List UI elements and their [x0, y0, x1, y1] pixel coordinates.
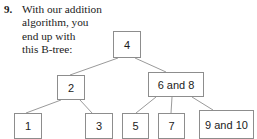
tree-node-leaf7: 7	[158, 113, 185, 139]
problem-text-line: this B-tree:	[22, 43, 114, 56]
tree-node-label: 2	[68, 82, 74, 94]
tree-edge-root-to-n2	[70, 58, 118, 75]
tree-node-leaf3: 3	[85, 113, 113, 139]
tree-edge-n68-to-leaf5	[136, 97, 156, 113]
tree-node-label: 3	[96, 120, 102, 132]
tree-edge-n2-to-leaf3	[80, 100, 92, 113]
tree-node-label: 1	[25, 120, 31, 132]
tree-node-root: 4	[113, 31, 141, 58]
tree-node-label: 7	[168, 120, 174, 132]
problem-text-line: end up with	[22, 30, 114, 43]
problem-number: 9.	[4, 3, 12, 15]
tree-node-label: 5	[132, 120, 138, 132]
problem-text-line: algorithm, you	[22, 16, 114, 29]
tree-edge-n68-to-leaf910	[192, 97, 213, 110]
problem-text: With our addition algorithm, you end up …	[22, 3, 114, 57]
tree-node-label: 9 and 10	[205, 119, 248, 131]
tree-node-leaf5: 5	[122, 113, 149, 139]
problem-text-line: With our addition	[22, 3, 114, 16]
tree-node-n68: 6 and 8	[148, 72, 204, 97]
tree-edge-n68-to-leaf7	[171, 97, 172, 113]
tree-node-label: 6 and 8	[158, 79, 195, 91]
tree-node-label: 4	[124, 39, 130, 51]
b-tree-problem-figure: 9. With our addition algorithm, you end …	[0, 0, 257, 139]
tree-edge-n2-to-leaf1	[26, 100, 61, 113]
tree-node-leaf910: 9 and 10	[199, 110, 254, 139]
tree-node-leaf1: 1	[14, 113, 42, 139]
tree-node-n2: 2	[57, 75, 85, 100]
tree-edge-root-to-n68	[135, 58, 166, 72]
